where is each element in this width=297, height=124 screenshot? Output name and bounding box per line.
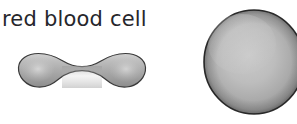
top-view-cell: [200, 2, 297, 124]
side-view-cell: [14, 46, 150, 98]
side-view-left-lobe-highlight: [21, 56, 55, 82]
red-blood-cell-label: red blood cell: [2, 9, 147, 30]
side-view-waist-shading: [62, 66, 102, 88]
top-view-cell-svg: [200, 2, 297, 124]
top-view-sheen-highlight: [208, 14, 276, 74]
side-view-right-lobe-highlight: [109, 56, 143, 82]
red-blood-cell-figure: red blood cell: [0, 0, 297, 124]
side-view-cell-svg: [14, 46, 150, 98]
